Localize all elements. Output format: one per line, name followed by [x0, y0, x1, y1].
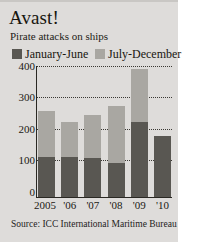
x-tick-06: '06 — [61, 199, 78, 213]
y-tick-200: 200 — [9, 123, 35, 135]
bar-segment-january-june — [154, 136, 171, 197]
bar-group-2006 — [61, 66, 78, 197]
bar-series-container — [38, 66, 171, 197]
bar-group-2010 — [154, 66, 171, 197]
bar-segment-july-december — [108, 106, 125, 163]
bar-segment-july-december — [84, 115, 101, 158]
bar-segment-january-june — [84, 158, 101, 197]
legend-item-january-june: January-June — [12, 44, 88, 58]
bar-segment-july-december — [61, 122, 78, 157]
y-tick-300: 300 — [9, 91, 35, 103]
y-tick-400: 400 — [9, 60, 35, 72]
chart-source: Source: ICC International Maritime Burea… — [11, 219, 177, 229]
bar-segment-january-june — [131, 122, 148, 197]
legend-swatch-july-december — [95, 49, 105, 59]
chart-card: Avast! Pirate attacks on ships January-J… — [0, 0, 178, 242]
y-axis-tick-labels: 400 300 200 100 0 — [7, 66, 35, 198]
bar-group-2009 — [131, 66, 148, 197]
y-tick-100: 100 — [9, 154, 35, 166]
legend-item-july-december: July-December — [95, 44, 181, 58]
x-axis-line — [37, 197, 172, 198]
x-tick-08: '08 — [108, 199, 125, 213]
legend-swatch-january-june — [12, 49, 22, 59]
x-axis-tick-labels: 2005 '06 '07 '08 '09 '10 — [38, 199, 171, 213]
screenshot-root: Avast! Pirate attacks on ships January-J… — [0, 0, 199, 242]
bar-group-2005 — [38, 66, 55, 197]
y-tick-0: 0 — [9, 186, 35, 198]
page-title: Avast! — [9, 8, 59, 28]
chart-subtitle: Pirate attacks on ships — [10, 30, 108, 42]
bar-segment-january-june — [108, 163, 125, 197]
y-axis-line — [36, 66, 37, 198]
chart-plot-area: 400 300 200 100 0 — [7, 66, 175, 198]
x-tick-09: '09 — [131, 199, 148, 213]
bar-group-2007 — [84, 66, 101, 197]
bar-segment-january-june — [61, 157, 78, 197]
x-tick-2005: 2005 — [34, 199, 51, 213]
bar-group-2008 — [108, 66, 125, 197]
bar-segment-july-december — [38, 111, 55, 157]
legend-label-january-june: January-June — [25, 47, 88, 61]
x-tick-07: '07 — [84, 199, 101, 213]
chart-legend: January-June July-December — [10, 44, 175, 58]
bar-segment-july-december — [131, 69, 148, 122]
chart-card-inner: Avast! Pirate attacks on ships January-J… — [7, 6, 175, 238]
bar-segment-january-june — [38, 157, 55, 197]
x-tick-10: '10 — [154, 199, 171, 213]
legend-label-july-december: July-December — [108, 47, 181, 61]
